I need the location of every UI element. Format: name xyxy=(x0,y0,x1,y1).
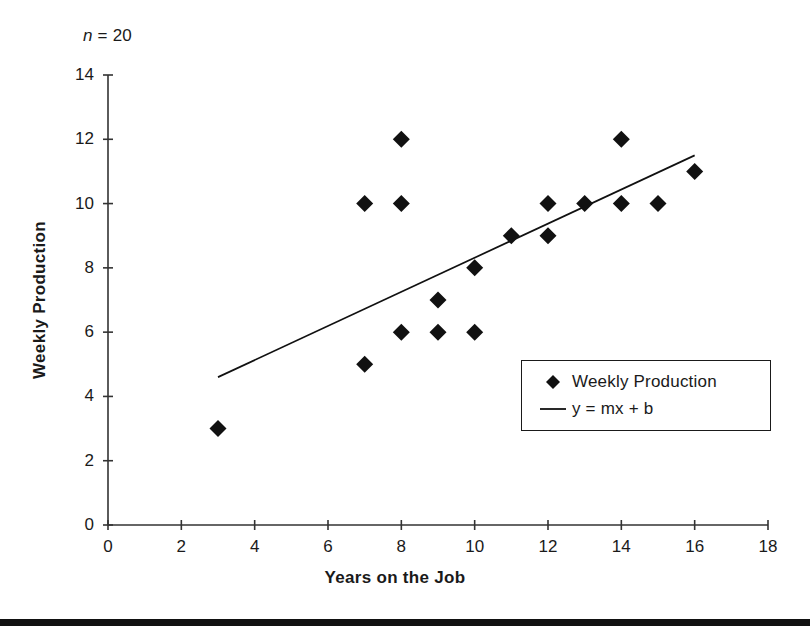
data-point-marker xyxy=(686,163,703,180)
data-point-marker xyxy=(356,195,373,212)
x-tick-label: 2 xyxy=(177,537,186,557)
x-tick-label: 16 xyxy=(685,537,704,557)
data-point-marker xyxy=(613,195,630,212)
legend-item-trendline: y = mx + b xyxy=(534,395,760,422)
y-axis-title: Weekly Production xyxy=(30,140,50,460)
data-point-marker xyxy=(466,324,483,341)
legend: Weekly Production y = mx + b xyxy=(521,360,771,431)
y-tick-label: 2 xyxy=(56,451,94,471)
data-point-marker xyxy=(210,420,227,437)
legend-label-trendline: y = mx + b xyxy=(572,399,653,419)
line-marker-icon xyxy=(534,404,572,414)
data-point-marker xyxy=(503,227,520,244)
data-point-marker xyxy=(356,356,373,373)
scatter-plot-figure: n = 20 Weekly Production Years on the Jo… xyxy=(0,0,810,632)
legend-item-weekly-production: Weekly Production xyxy=(534,368,760,395)
y-tick-label: 4 xyxy=(56,386,94,406)
x-tick-label: 6 xyxy=(323,537,332,557)
data-point-marker xyxy=(393,131,410,148)
x-axis-title: Years on the Job xyxy=(0,568,790,588)
data-point-marker xyxy=(430,324,447,341)
data-point-marker xyxy=(540,227,557,244)
data-point-marker xyxy=(393,324,410,341)
diamond-marker-icon xyxy=(534,374,572,390)
y-tick-label: 10 xyxy=(56,194,94,214)
data-point-marker xyxy=(430,292,447,309)
y-tick-label: 0 xyxy=(56,515,94,535)
x-tick-label: 18 xyxy=(759,537,778,557)
bottom-divider-rule xyxy=(0,619,810,626)
y-tick-label: 14 xyxy=(56,65,94,85)
x-tick-label: 8 xyxy=(397,537,406,557)
data-point-marker xyxy=(613,131,630,148)
x-tick-label: 4 xyxy=(250,537,259,557)
data-point-marker xyxy=(650,195,667,212)
x-tick-label: 14 xyxy=(612,537,631,557)
y-tick-label: 12 xyxy=(56,129,94,149)
data-point-marker xyxy=(466,259,483,276)
y-tick-label: 6 xyxy=(56,322,94,342)
y-tick-label: 8 xyxy=(56,258,94,278)
regression-line xyxy=(218,155,695,377)
x-tick-label: 0 xyxy=(103,537,112,557)
x-tick-label: 12 xyxy=(539,537,558,557)
data-point-marker xyxy=(540,195,557,212)
data-point-marker xyxy=(393,195,410,212)
legend-label-weekly-production: Weekly Production xyxy=(572,372,717,392)
x-tick-label: 10 xyxy=(465,537,484,557)
